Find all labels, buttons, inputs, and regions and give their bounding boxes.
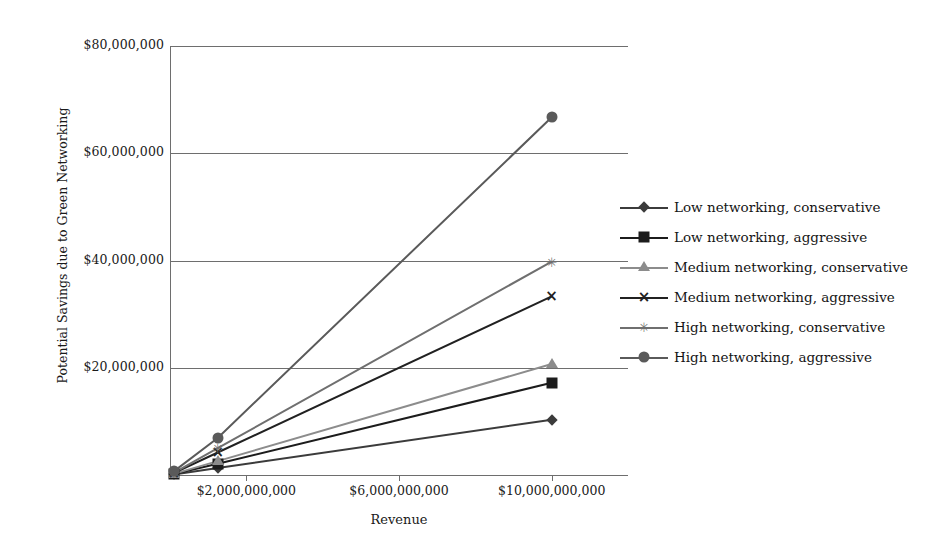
line-chart: $20,000,000$40,000,000$60,000,000$80,000… [0,0,930,555]
y-tick-label: $40,000,000 [34,252,164,267]
legend-item[interactable]: Low networking, conservative [620,192,925,222]
x-tick-label: $6,000,000,000 [349,483,448,498]
square-marker [639,232,650,243]
x-axis-title: Revenue [170,512,628,527]
plot-area: ×××✳✳✳ [170,46,628,475]
legend-label: High networking, conservative [674,319,885,335]
y-axis-title: Potential Savings due to Green Networkin… [55,96,70,396]
legend-item[interactable]: Low networking, aggressive [620,222,925,252]
legend-sample [620,227,668,247]
legend-label: Low networking, aggressive [674,229,867,245]
series-line [174,262,552,473]
series-lines [170,46,628,475]
triangle-marker [546,358,558,368]
circle-marker [212,432,223,443]
y-tick-label: $20,000,000 [34,359,164,374]
cross-marker: × [545,289,558,304]
circle-marker [546,112,557,123]
star-marker: ✳ [546,255,557,268]
series-line [174,364,552,474]
legend: Low networking, conservativeLow networki… [620,192,925,372]
legend-label: High networking, aggressive [674,349,872,365]
y-tick-label: $60,000,000 [34,144,164,159]
diamond-marker [638,201,649,212]
cross-marker: × [638,290,651,305]
legend-item[interactable]: High networking, aggressive [620,342,925,372]
circle-marker [168,466,179,477]
star-marker: ✳ [212,442,223,455]
legend-sample: × [620,287,668,307]
circle-marker [639,352,650,363]
y-tick-label: $80,000,000 [34,37,164,52]
legend-sample [620,257,668,277]
x-tick-label: $10,000,000,000 [498,483,605,498]
legend-label: Medium networking, conservative [674,259,908,275]
legend-sample: ✳ [620,317,668,337]
legend-label: Medium networking, aggressive [674,289,895,305]
square-marker [546,377,557,388]
legend-sample [620,347,668,367]
legend-item[interactable]: Medium networking, conservative [620,252,925,282]
star-marker: ✳ [639,321,650,334]
legend-item[interactable]: ×Medium networking, aggressive [620,282,925,312]
x-tick [552,475,553,481]
triangle-marker [638,261,650,271]
x-tick [246,475,247,481]
legend-label: Low networking, conservative [674,199,880,215]
legend-sample [620,197,668,217]
legend-item[interactable]: ✳High networking, conservative [620,312,925,342]
x-tick [399,475,400,481]
y-axis-tick-labels: $20,000,000$40,000,000$60,000,000$80,000… [30,0,164,555]
x-tick-label: $2,000,000,000 [197,483,296,498]
